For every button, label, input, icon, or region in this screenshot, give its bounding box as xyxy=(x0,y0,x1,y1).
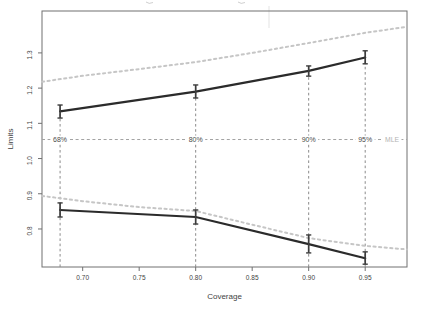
x-tick-label: 0.90 xyxy=(302,274,315,281)
y-tick-label: 1.0 xyxy=(26,156,33,165)
rplot-figure: 0.700.750.800.850.900.950.80.91.01.11.21… xyxy=(0,0,425,317)
y-axis-title: Limits xyxy=(6,129,15,150)
y-tick-label: 0.9 xyxy=(26,191,33,200)
y-tick-label: 1.2 xyxy=(26,85,33,94)
x-tick-label: 0.75 xyxy=(133,274,146,281)
y-tick-label: 0.8 xyxy=(26,226,33,235)
coverage-label: 90% xyxy=(302,136,316,143)
y-tick-label: 1.3 xyxy=(26,50,33,59)
x-tick-label: 0.95 xyxy=(359,274,372,281)
y-tick-label: 1.1 xyxy=(26,120,33,129)
coverage-label: 80% xyxy=(189,136,203,143)
mle-label: MLE xyxy=(385,136,399,143)
x-tick-label: 0.85 xyxy=(246,274,259,281)
x-tick-label: 0.80 xyxy=(189,274,202,281)
x-axis-title: Coverage xyxy=(207,292,242,301)
coverage-label: 95% xyxy=(358,136,372,143)
plot-svg: 0.700.750.800.850.900.950.80.91.01.11.21… xyxy=(0,0,425,317)
plot-background xyxy=(0,0,425,317)
coverage-label: 68% xyxy=(53,136,67,143)
x-tick-label: 0.70 xyxy=(76,274,89,281)
